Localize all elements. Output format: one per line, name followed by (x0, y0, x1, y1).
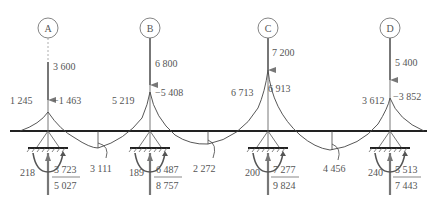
moment-left-d: 3 612 (362, 95, 385, 106)
base-moment-c: 200 (245, 167, 260, 178)
moment-right-a: −1 463 (53, 95, 81, 106)
node-label-a: A (44, 23, 52, 34)
reaction-top-c: 7 277 (273, 164, 296, 175)
node-label-b: B (147, 23, 154, 34)
moment-right-b: −5 408 (155, 87, 183, 98)
span-moment-bc: 2 272 (193, 163, 216, 174)
reaction-top-d: 5 513 (395, 164, 418, 175)
span-moment-cd: 4 456 (323, 163, 346, 174)
load-value-b: 6 800 (155, 58, 178, 69)
reaction-bottom-c: 9 824 (273, 180, 296, 191)
moment-left-b: 5 219 (112, 95, 135, 106)
moment-left-a: 1 245 (10, 95, 33, 106)
load-value-c: 7 200 (272, 47, 295, 58)
span-marker-ab (98, 131, 107, 158)
load-value-a: 3 600 (53, 61, 76, 72)
reaction-top-a: 3 723 (54, 164, 77, 175)
span-marker-cd (332, 131, 339, 160)
reaction-top-b: 6 487 (156, 164, 179, 175)
reaction-bottom-a: 5 027 (54, 180, 77, 191)
load-value-d: 5 400 (395, 57, 418, 68)
node-label-d: D (386, 23, 393, 34)
moment-curve (20, 70, 424, 150)
node-label-c: C (265, 23, 272, 34)
base-moment-a: 218 (20, 167, 35, 178)
moment-right-d: −3 852 (393, 91, 421, 102)
span-marker-bc (208, 131, 215, 158)
base-moment-d: 240 (368, 167, 383, 178)
moment-left-c: 6 713 (231, 87, 254, 98)
base-moment-b: 189 (129, 167, 144, 178)
beam-diagram: A 3 600 1 245 −1 463 218 3 723 5 027 B 6… (0, 0, 437, 197)
reaction-bottom-b: 8 757 (156, 180, 179, 191)
span-moment-ab: 3 111 (90, 163, 112, 174)
reaction-bottom-d: 7 443 (395, 180, 418, 191)
